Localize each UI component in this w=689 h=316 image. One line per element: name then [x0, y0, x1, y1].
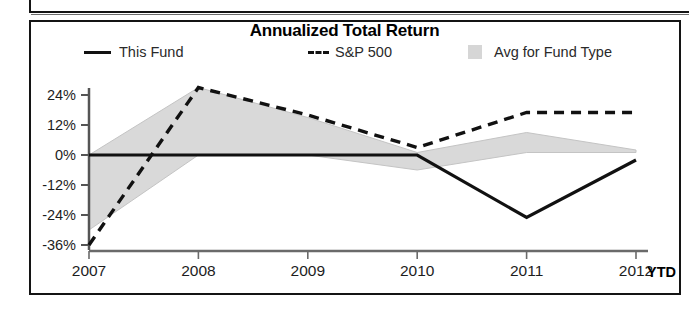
y-tick-label: 24%	[14, 87, 76, 103]
y-tick-label: -36%	[14, 237, 76, 253]
dashed-line-swatch-icon	[308, 51, 329, 54]
x-axis-ytd-note: YTD	[647, 264, 676, 280]
legend-item-this-fund: This Fund	[84, 41, 183, 63]
x-tick-label: 2008	[181, 262, 215, 280]
y-tick-label: -12%	[14, 177, 76, 193]
x-tick-label: 2009	[291, 262, 325, 280]
legend-item-avg-fund-type: Avg for Fund Type	[468, 41, 612, 63]
chart-legend: This Fund S&P 500 Avg for Fund Type	[0, 41, 689, 65]
x-axis-labels: 200720082009201020112012	[0, 262, 689, 288]
x-tick-label: 2011	[510, 262, 543, 280]
legend-item-sp500: S&P 500	[308, 41, 392, 63]
legend-label-sp500: S&P 500	[335, 44, 392, 60]
x-tick-label: 2007	[72, 262, 106, 280]
legend-label-this-fund: This Fund	[119, 44, 183, 60]
y-tick-label: 12%	[14, 117, 76, 133]
x-tick-label: 2010	[400, 262, 434, 280]
scan-artifact-strip	[29, 0, 689, 13]
solid-line-swatch-icon	[84, 51, 111, 54]
legend-label-avg-fund-type: Avg for Fund Type	[494, 44, 612, 60]
y-tick-label: -24%	[14, 207, 76, 223]
area-swatch-icon	[468, 45, 482, 59]
y-tick-label: 0%	[14, 147, 76, 163]
chart-title: Annualized Total Return	[0, 21, 689, 41]
